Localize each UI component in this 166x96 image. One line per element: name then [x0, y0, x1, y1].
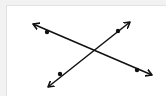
- intersecting-lines-diagram: [0, 0, 166, 96]
- line-2-point-1: [58, 72, 62, 76]
- line-1-point-2: [135, 68, 139, 72]
- line-1: [33, 24, 152, 75]
- line-2-point-2: [116, 29, 120, 33]
- line-1-point-1: [45, 30, 49, 34]
